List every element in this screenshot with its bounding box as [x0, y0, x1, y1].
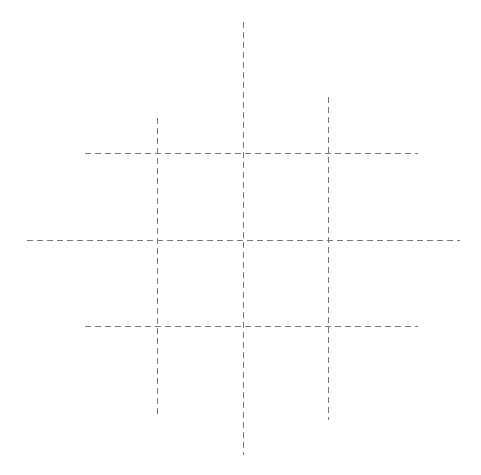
dashed-grid [0, 0, 481, 475]
horizontal-lines-group [27, 154, 460, 327]
diagram-canvas [0, 0, 481, 475]
vertical-lines-group [158, 22, 329, 455]
